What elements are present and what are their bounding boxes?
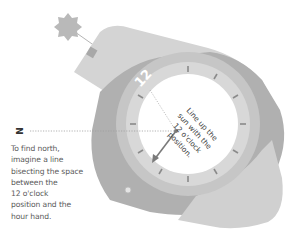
watch-crown (125, 187, 131, 193)
caption-line: position and the (11, 199, 81, 210)
caption-line: bisecting the space (11, 166, 81, 177)
caption: To find north, imagine a line bisecting … (11, 143, 81, 222)
caption-line: between the (11, 177, 81, 188)
caption-line: imagine a line (11, 154, 81, 165)
caption-line: 12 o'clock (11, 188, 81, 199)
caption-line: hour hand. (11, 211, 81, 222)
caption-line: To find north, (11, 143, 81, 154)
sun-icon (54, 13, 82, 41)
north-label: N (14, 127, 24, 135)
